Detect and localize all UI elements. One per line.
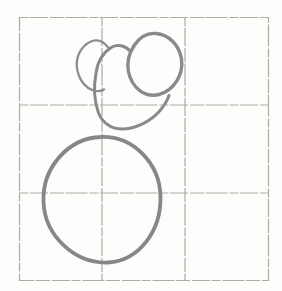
sketch-canvas [0,0,282,291]
scanned-sketch-page [0,0,282,291]
